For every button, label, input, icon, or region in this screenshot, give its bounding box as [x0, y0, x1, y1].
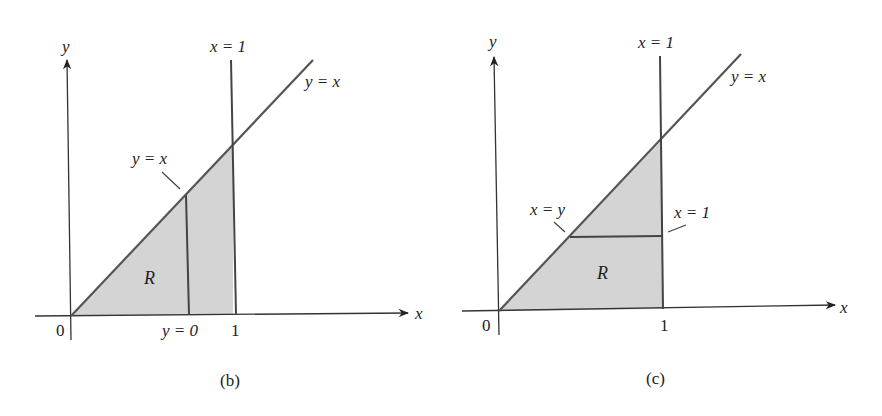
slice-left-label: x = y — [529, 200, 566, 219]
slice-right-leader — [668, 225, 686, 232]
slice-top-leader — [162, 172, 180, 189]
slice-top-label: y = x — [130, 149, 168, 168]
slice-right-label: x = 1 — [673, 203, 710, 222]
x-tick-1-label: 1 — [660, 316, 669, 335]
y-axis — [67, 60, 71, 340]
x-equals-1-label: x = 1 — [637, 33, 674, 52]
slice-bottom-label: y = 0 — [160, 321, 199, 340]
y-axis-label: y — [60, 37, 70, 56]
origin-label: 0 — [56, 321, 65, 340]
diagram-canvas: y x 0 1 x = 1 y = x y = x y = 0 R (b) y … — [0, 0, 882, 416]
region-label: R — [143, 268, 155, 288]
x-axis-label: x — [839, 298, 848, 317]
y-axis-label: y — [487, 32, 497, 51]
x-tick-1-label: 1 — [231, 321, 240, 340]
origin-label: 0 — [482, 316, 491, 335]
horizontal-slice — [570, 236, 662, 237]
slice-left-leader — [554, 222, 565, 232]
figure-caption: (c) — [646, 369, 665, 388]
y-axis — [494, 57, 499, 335]
region-label: R — [596, 263, 608, 283]
x-equals-1-label: x = 1 — [209, 37, 246, 56]
x-axis-label: x — [414, 304, 423, 323]
y-equals-x-label: y = x — [303, 72, 341, 91]
figure-c: y x 0 1 x = 1 y = x x = y x = 1 R (c) — [462, 32, 848, 388]
figure-caption: (b) — [220, 371, 240, 390]
y-equals-x-label: y = x — [729, 67, 767, 86]
figure-b: y x 0 1 x = 1 y = x y = x y = 0 R (b) — [35, 37, 423, 390]
